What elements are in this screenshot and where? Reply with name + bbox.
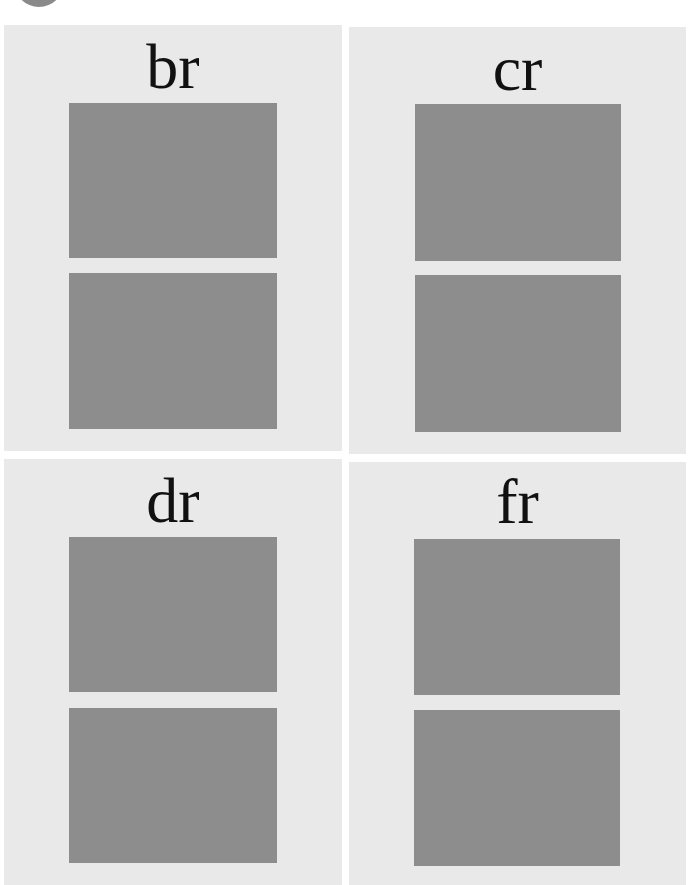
card-label: dr bbox=[4, 469, 342, 533]
card-label: br bbox=[4, 35, 342, 99]
swatch-bottom bbox=[415, 275, 621, 432]
swatch-bottom bbox=[414, 710, 620, 866]
swatch-bottom bbox=[69, 708, 277, 863]
card-br[interactable]: br bbox=[4, 25, 342, 451]
card-fr[interactable]: fr bbox=[349, 462, 686, 885]
swatch-bottom bbox=[69, 273, 277, 429]
card-label: fr bbox=[349, 470, 686, 534]
card-label: cr bbox=[349, 37, 686, 101]
card-dr[interactable]: dr bbox=[4, 459, 342, 885]
swatch-top bbox=[69, 103, 277, 258]
card-cr[interactable]: cr bbox=[349, 27, 686, 454]
swatch-top bbox=[415, 104, 621, 261]
corner-circle-decoration bbox=[14, 0, 64, 7]
swatch-top bbox=[414, 539, 620, 695]
swatch-top bbox=[69, 537, 277, 692]
